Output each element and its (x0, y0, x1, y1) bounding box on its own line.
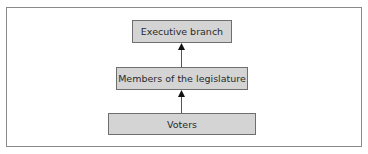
node-members-of-legislature: Members of the legislature (116, 67, 248, 90)
node-voters: Voters (108, 113, 256, 135)
node-label: Executive branch (141, 26, 223, 37)
node-executive-branch: Executive branch (132, 20, 232, 43)
node-label: Voters (167, 119, 197, 130)
node-label: Members of the legislature (118, 73, 246, 84)
